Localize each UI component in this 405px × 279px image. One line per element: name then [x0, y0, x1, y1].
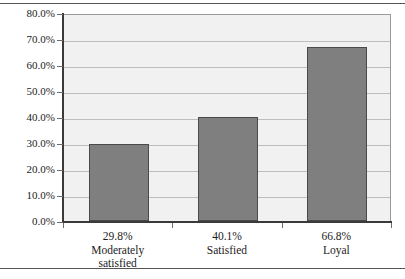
y-axis-tick [57, 196, 63, 197]
y-axis-tick [57, 40, 63, 41]
y-axis-tick [57, 14, 63, 15]
category-label-group: 66.8%Loyal [282, 230, 391, 257]
bar-series [64, 15, 390, 221]
y-axis-tick [57, 66, 63, 67]
figure-bottom-rule [0, 268, 405, 269]
bar-value-label: 40.1% [172, 230, 281, 244]
y-axis-tick [57, 170, 63, 171]
y-axis-tick-label: 50.0% [3, 86, 55, 97]
y-axis-tick [57, 118, 63, 119]
category-label-group: 29.8%Moderatelysatisfied [63, 230, 172, 271]
y-axis-tick-label: 40.0% [3, 112, 55, 123]
x-axis-tick [63, 223, 64, 228]
y-axis-tick [57, 92, 63, 93]
category-name-line: satisfied [63, 257, 172, 271]
bar [89, 144, 149, 221]
category-label-group: 40.1%Satisfied [172, 230, 281, 257]
x-axis-tick [391, 223, 392, 228]
y-axis-tick-label: 60.0% [3, 60, 55, 71]
y-axis-tick-label: 70.0% [3, 34, 55, 45]
figure-top-rule [0, 3, 405, 4]
bar-value-label: 29.8% [63, 230, 172, 244]
bar-chart-figure: 0.0%10.0%20.0%30.0%40.0%50.0%60.0%70.0%8… [0, 0, 405, 279]
category-name-line: Moderately [63, 244, 172, 258]
category-name-line: Satisfied [172, 244, 281, 258]
y-axis-labels: 0.0%10.0%20.0%30.0%40.0%50.0%60.0%70.0%8… [0, 0, 55, 279]
x-axis-tick [282, 223, 283, 228]
y-axis-tick-label: 0.0% [3, 216, 55, 227]
plot-area [63, 14, 391, 222]
bar-value-label: 66.8% [282, 230, 391, 244]
y-axis-tick-label: 80.0% [3, 8, 55, 19]
bar [307, 47, 367, 221]
category-name-line: Loyal [282, 244, 391, 258]
y-axis-tick-label: 10.0% [3, 190, 55, 201]
y-axis-tick [57, 144, 63, 145]
bar [198, 117, 258, 221]
y-axis-tick-label: 20.0% [3, 164, 55, 175]
x-axis-tick [172, 223, 173, 228]
y-axis-tick-label: 30.0% [3, 138, 55, 149]
x-axis-line [62, 221, 392, 223]
